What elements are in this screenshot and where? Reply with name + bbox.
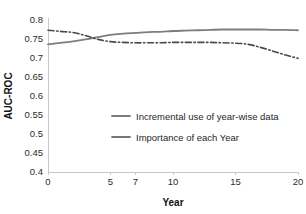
y-tick-label: 0.65 (25, 71, 44, 82)
x-tick-label: 5 (108, 176, 113, 187)
legend-label: Importance of each Year (136, 132, 239, 143)
y-tick-label: 0.8 (30, 14, 43, 25)
y-tick-label: 0.7 (30, 52, 43, 63)
x-tick-label: 20 (293, 176, 304, 187)
x-axis-tick-labels: 057101520 (45, 176, 303, 187)
y-tick-label: 0.6 (30, 90, 43, 101)
chart-legend: Incremental use of year-wise dataImporta… (112, 111, 279, 143)
x-tick-label: 7 (133, 176, 138, 187)
x-tick-label: 0 (45, 176, 50, 187)
plot-series (48, 29, 298, 58)
x-axis-title: Year (162, 197, 183, 208)
axis-lines (48, 18, 298, 172)
x-tick-label: 10 (168, 176, 179, 187)
y-tick-label: 0.45 (25, 147, 44, 158)
y-axis-tick-labels: 0.40.450.50.550.60.650.70.750.8 (25, 14, 44, 177)
x-tick-label: 15 (230, 176, 241, 187)
y-tick-label: 0.4 (30, 166, 43, 177)
series-line-dashdot (48, 30, 298, 58)
y-axis-title: AUC-ROC (3, 72, 14, 119)
legend-label: Incremental use of year-wise data (136, 111, 279, 122)
y-tick-label: 0.55 (25, 109, 44, 120)
y-tick-label: 0.5 (30, 128, 43, 139)
chart-container: 0.40.450.50.550.60.650.70.750.8 05710152… (0, 0, 306, 214)
y-tick-label: 0.75 (25, 33, 44, 44)
auc-roc-line-chart: 0.40.450.50.550.60.650.70.750.8 05710152… (0, 0, 306, 214)
